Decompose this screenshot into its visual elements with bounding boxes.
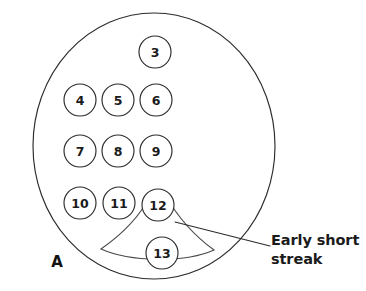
colony-5: 5 <box>102 84 134 116</box>
colony-group: 3 4 5 6 7 8 9 <box>64 36 178 269</box>
colony-label: 11 <box>110 196 127 211</box>
annotation-leader-line <box>175 222 270 246</box>
colony-11: 11 <box>103 187 135 219</box>
colony-12: 12 <box>142 189 174 221</box>
colony-label: 5 <box>114 93 123 108</box>
colony-9: 9 <box>140 135 172 167</box>
colony-label: 6 <box>152 93 161 108</box>
colony-6: 6 <box>140 84 172 116</box>
colony-label: 7 <box>76 144 85 159</box>
colony-label: 9 <box>152 144 161 159</box>
colony-3: 3 <box>139 36 171 68</box>
colony-7: 7 <box>64 135 96 167</box>
colony-label: 4 <box>76 93 85 108</box>
panel-letter: A <box>51 253 63 271</box>
colony-10: 10 <box>64 187 96 219</box>
colony-13: 13 <box>146 237 178 269</box>
colony-4: 4 <box>64 84 96 116</box>
colony-label: 13 <box>153 246 170 261</box>
colony-label: 10 <box>71 196 89 211</box>
colony-label: 3 <box>151 45 160 60</box>
colony-label: 12 <box>149 198 166 213</box>
colony-label: 8 <box>114 144 123 159</box>
colony-8: 8 <box>102 135 134 167</box>
figure-panel-a: 3 4 5 6 7 8 9 <box>0 0 366 291</box>
annotation-early-short-streak: Early short streak <box>271 231 366 269</box>
